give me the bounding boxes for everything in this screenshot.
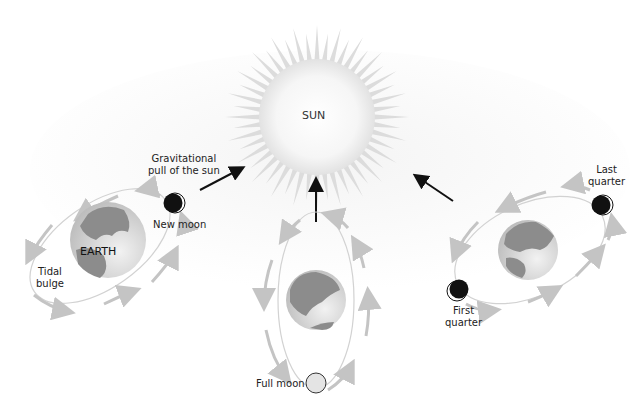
orbit-arrow [608, 218, 613, 240]
full-moon-label: Full moon [256, 378, 305, 390]
first-quarter-line2: quarter [445, 317, 482, 329]
tidal-bulge-label: Tidal bulge [36, 266, 64, 290]
orbit-arrow [576, 248, 602, 276]
earth-globe [286, 270, 346, 330]
orbit-arrow [266, 330, 288, 380]
sun-label: SUN [302, 110, 325, 122]
new-moon [164, 193, 186, 213]
last-quarter-moon [592, 195, 614, 215]
full-moon [306, 373, 326, 393]
first-quarter-moon [447, 280, 469, 302]
orbit-arrow [366, 292, 369, 336]
earth-globe [498, 220, 558, 280]
gravity-label-line2: pull of the sun [148, 165, 220, 177]
first-quarter-label: First quarter [445, 305, 482, 329]
orbit-arrow [528, 288, 558, 302]
earth-globe [70, 202, 146, 278]
gravity-label-line1: Gravitational [148, 153, 220, 165]
gravity-label: Gravitational pull of the sun [148, 153, 220, 177]
last-quarter-line1: Last [588, 164, 625, 176]
tidal-bulge-line1: Tidal [36, 266, 64, 278]
first-quarter-line1: First [445, 305, 482, 317]
orbit-arrow [28, 225, 52, 260]
last-quarter-label: Last quarter [588, 164, 625, 188]
new-moon-label: New moon [153, 219, 206, 231]
earth-label: EARTH [80, 246, 116, 258]
last-quarter-line2: quarter [588, 176, 625, 188]
tides-diagram [0, 0, 636, 412]
orbit-arrow [104, 290, 136, 304]
tidal-bulge-line2: bulge [36, 278, 64, 290]
